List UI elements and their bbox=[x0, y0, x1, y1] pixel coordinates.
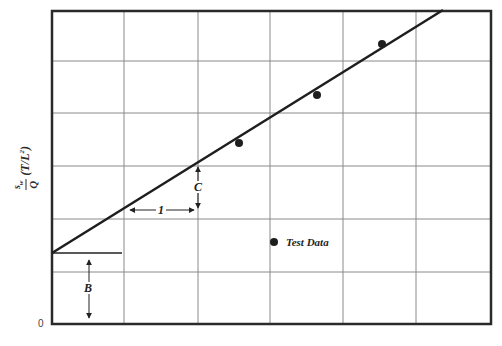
data-point bbox=[235, 139, 243, 147]
data-point bbox=[378, 40, 386, 48]
legend: Test Data bbox=[270, 236, 329, 248]
plot-frame bbox=[52, 11, 491, 324]
origin-label: 0 bbox=[38, 318, 44, 329]
data-point bbox=[313, 91, 321, 99]
slope-label: C bbox=[192, 181, 204, 193]
plot-area bbox=[0, 0, 502, 346]
run-label: 1 bbox=[156, 204, 166, 216]
legend-marker-icon bbox=[270, 238, 278, 246]
legend-label: Test Data bbox=[286, 236, 329, 248]
grid bbox=[52, 11, 491, 324]
regression-figure: sw Q (T/L2) bbox=[0, 0, 502, 346]
intercept-label: B bbox=[82, 282, 94, 294]
